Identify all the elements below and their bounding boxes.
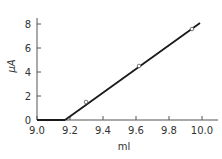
- x-tick-label: 9.4: [95, 125, 111, 136]
- x-tick-label: 10.0: [191, 125, 213, 136]
- y-tick-label: 4: [25, 67, 31, 78]
- x-axis: 9.0 9.2 9.4 9.6 9.8 10.0 ml: [29, 116, 218, 152]
- y-tick-label: 6: [25, 43, 31, 54]
- x-tick-label: 9.2: [62, 125, 78, 136]
- data-point-marker: [190, 27, 194, 31]
- titration-line: [65, 23, 200, 120]
- titration-chart: 0 2 4 6 8 μA 9.0 9.2 9.4 9.6 9.8 10.0 ml: [0, 0, 222, 159]
- x-tick-label: 9.6: [128, 125, 144, 136]
- x-tick-label: 9.0: [29, 125, 45, 136]
- y-axis-title: μA: [6, 59, 17, 73]
- data-point-marker: [84, 100, 88, 104]
- x-tick-label: 9.8: [161, 125, 177, 136]
- y-ticks: [37, 24, 41, 120]
- y-tick-label: 8: [25, 19, 31, 30]
- data-point-marker: [137, 64, 141, 68]
- y-axis: 0 2 4 6 8 μA: [6, 18, 41, 126]
- y-tick-label: 2: [25, 91, 31, 102]
- x-axis-title: ml: [118, 141, 131, 152]
- plot-area: [37, 23, 200, 120]
